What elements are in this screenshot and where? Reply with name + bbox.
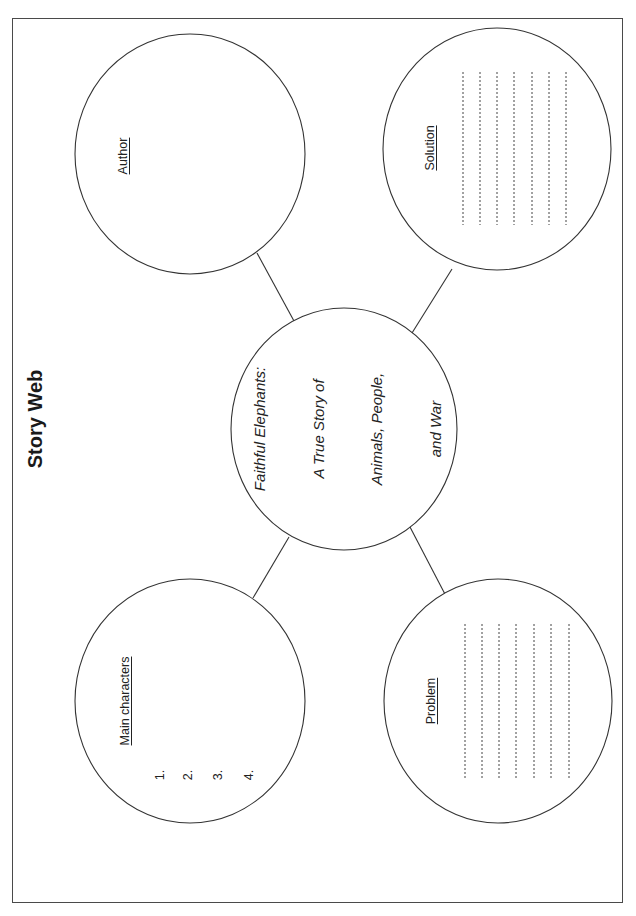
character-item-4: 4. (242, 770, 256, 780)
author-label: Author (116, 138, 130, 175)
character-item-3: 3. (211, 770, 225, 780)
main-characters-label: Main characters (118, 657, 132, 746)
center-title-line-1: Faithful Elephants: (250, 367, 270, 491)
center-title-line-4: and War (426, 367, 446, 491)
solution-label: Solution (423, 125, 437, 170)
character-item-2: 2. (181, 770, 195, 780)
author-bubble[interactable] (75, 34, 305, 274)
main-characters-bubble[interactable] (75, 579, 305, 823)
center-title-line-3: Animals, People, (367, 367, 387, 491)
connector-author (257, 253, 294, 321)
center-title-line-2: A True Story of (309, 367, 329, 491)
problem-bubble[interactable] (384, 579, 612, 823)
character-item-1: 1. (153, 770, 167, 780)
connector-problem (410, 527, 447, 598)
center-book-title: Faithful Elephants: A True Story of Anim… (211, 367, 465, 491)
connector-solution (412, 269, 452, 333)
problem-label: Problem (424, 678, 438, 725)
connector-main-characters (253, 537, 289, 598)
page-title: Story Web (24, 370, 47, 469)
